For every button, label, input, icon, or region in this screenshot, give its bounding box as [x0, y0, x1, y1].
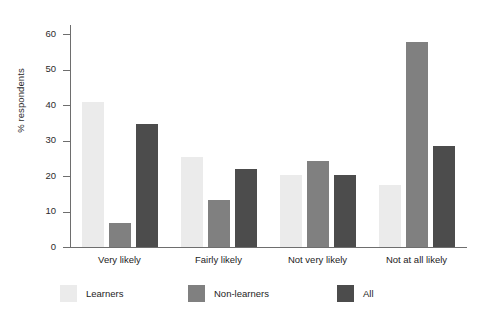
bar: [379, 185, 401, 247]
legend-item: Learners: [60, 283, 124, 303]
y-axis-tick-label: 40: [14, 100, 56, 110]
bar: [433, 146, 455, 247]
y-axis-tick-mark: [63, 247, 71, 248]
legend-item: All: [337, 283, 374, 303]
bar: [235, 169, 257, 247]
bar-chart: % respondents 0102030405060 Very likelyF…: [0, 0, 477, 317]
y-axis-tick-label: 60: [14, 29, 56, 39]
legend-color-swatch: [60, 285, 77, 302]
bar: [280, 175, 302, 247]
legend-color-swatch: [337, 285, 354, 302]
bar: [307, 161, 329, 247]
y-axis-tick-label: 50: [14, 64, 56, 74]
x-axis-category-label: Very likely: [70, 254, 169, 265]
bar: [406, 42, 428, 247]
bar: [208, 200, 230, 247]
x-axis-category-label: Not at all likely: [367, 254, 466, 265]
bar: [181, 157, 203, 247]
legend-label: Non-learners: [214, 288, 269, 299]
bar: [109, 223, 131, 247]
x-axis-category-label: Fairly likely: [169, 254, 268, 265]
y-axis-tick-label: 30: [14, 135, 56, 145]
plot-area: [70, 27, 466, 247]
bar: [334, 175, 356, 247]
bar: [82, 102, 104, 247]
chart-legend: LearnersNon-learnersAll: [0, 283, 477, 307]
legend-label: All: [363, 288, 374, 299]
y-axis-tick-label: 0: [14, 242, 56, 252]
y-axis-tick-label: 10: [14, 206, 56, 216]
x-axis-line: [70, 247, 467, 248]
bar: [136, 124, 158, 247]
legend-item: Non-learners: [188, 283, 269, 303]
y-axis-tick-label: 20: [14, 171, 56, 181]
x-axis-category-label: Not very likely: [268, 254, 367, 265]
legend-label: Learners: [86, 288, 124, 299]
legend-color-swatch: [188, 285, 205, 302]
